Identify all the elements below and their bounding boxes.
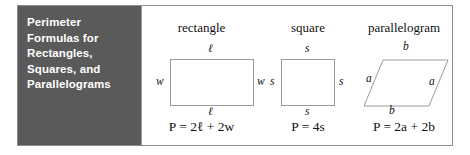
rectangle-bottom-side-label: ℓ — [208, 105, 213, 117]
shape-column-square: square s s s s P = 4s — [261, 6, 355, 145]
diagram-content: rectangle ℓ ℓ w w P = 2ℓ + 2w square s s… — [141, 6, 452, 145]
square-right-side-label: s — [339, 75, 343, 87]
shape-label-parallelogram: parallelogram — [355, 20, 453, 36]
shape-column-parallelogram: parallelogram b b a a P = 2a + 2b — [355, 6, 453, 145]
square-shape — [281, 59, 335, 106]
square-bottom-side-label: s — [305, 105, 309, 117]
parallelogram-right-side-label: a — [429, 75, 435, 87]
square-left-side-label: s — [270, 75, 274, 87]
formula-square: P = 4s — [261, 119, 355, 135]
rectangle-top-side-label: ℓ — [208, 42, 213, 54]
formula-rectangle: P = 2ℓ + 2w — [142, 119, 261, 135]
formula-parallelogram: P = 2a + 2b — [355, 119, 453, 135]
parallelogram-left-side-label: a — [366, 72, 372, 84]
rectangle-left-side-label: w — [156, 75, 164, 87]
parallelogram-bottom-side-label: b — [389, 104, 395, 116]
shape-column-rectangle: rectangle ℓ ℓ w w P = 2ℓ + 2w — [142, 6, 261, 145]
shape-label-square: square — [261, 20, 355, 36]
title-panel: Perimeter Formulas for Rectangles, Squar… — [18, 6, 141, 145]
figure-title: Perimeter Formulas for Rectangles, Squar… — [27, 15, 141, 93]
shape-label-rectangle: rectangle — [142, 20, 261, 36]
parallelogram-top-side-label: b — [403, 40, 409, 52]
rectangle-shape — [170, 59, 254, 106]
square-top-side-label: s — [305, 42, 309, 54]
parallelogram-shape — [363, 56, 449, 110]
perimeter-formulas-figure: Perimeter Formulas for Rectangles, Squar… — [17, 5, 453, 146]
